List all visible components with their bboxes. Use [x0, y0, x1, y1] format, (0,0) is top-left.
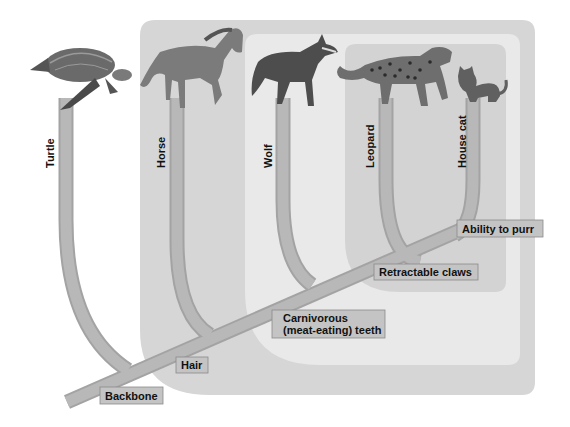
turtle-illustration: [30, 48, 132, 110]
svg-text:Retractable claws: Retractable claws: [379, 266, 472, 278]
svg-text:Carnivorous: Carnivorous: [283, 312, 348, 324]
taxon-label-house-cat: House cat: [456, 115, 468, 168]
cladogram: Turtle Horse Wolf Leopard House cat Back…: [0, 0, 570, 427]
svg-text:Ability to purr: Ability to purr: [462, 223, 535, 235]
trait-label-carnivorous-teeth: Carnivorous (meat-eating) teeth: [272, 310, 385, 338]
trait-label-hair: Hair: [176, 357, 208, 373]
trait-label-retractable-claws: Retractable claws: [374, 264, 478, 280]
svg-text:(meat-eating) teeth: (meat-eating) teeth: [283, 324, 382, 336]
trait-label-backbone: Backbone: [100, 387, 163, 404]
trait-label-ability-to-purr: Ability to purr: [457, 220, 543, 237]
taxon-label-leopard: Leopard: [364, 125, 376, 168]
taxon-label-horse: Horse: [155, 137, 167, 168]
svg-text:Backbone: Backbone: [105, 390, 158, 402]
taxon-label-wolf: Wolf: [262, 144, 274, 168]
svg-text:Hair: Hair: [181, 359, 203, 371]
taxon-label-turtle: Turtle: [44, 138, 56, 168]
